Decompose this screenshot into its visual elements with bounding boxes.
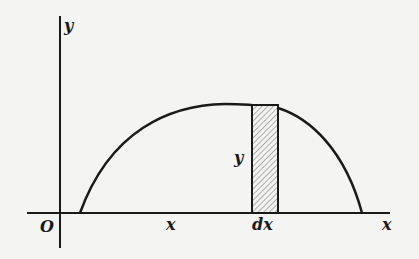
shaded-strip — [252, 105, 278, 213]
area-diagram: y O x dx x y — [0, 0, 419, 259]
y-axis-label: y — [63, 16, 75, 35]
x-position-label: x — [165, 215, 176, 234]
strip-height-label: y — [233, 148, 245, 167]
curve — [80, 104, 362, 213]
origin-label: O — [40, 217, 54, 236]
x-axis-label: x — [381, 215, 392, 234]
dx-label: dx — [252, 215, 273, 234]
